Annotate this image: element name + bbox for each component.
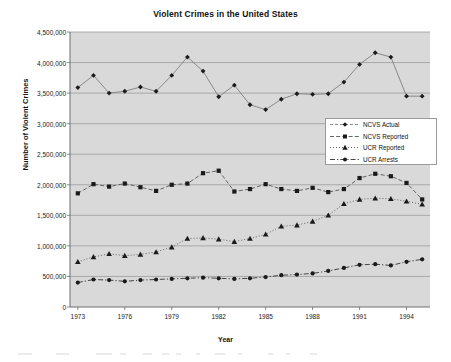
data-point-marker: [248, 187, 252, 191]
legend-item[interactable]: NCVS Reported: [326, 131, 436, 143]
data-point-marker: [279, 187, 283, 191]
data-point-marker: [185, 276, 189, 280]
data-point-marker: [311, 186, 315, 190]
legend-item[interactable]: NCVS Actual: [326, 119, 436, 131]
data-point-marker: [404, 260, 408, 264]
data-point-marker: [264, 275, 268, 279]
data-point-marker: [170, 277, 174, 281]
legend-marker-triangle-icon: [328, 142, 362, 153]
legend-label: UCR Reported: [363, 144, 404, 151]
data-point-marker: [420, 197, 424, 201]
data-point-marker: [107, 278, 111, 282]
data-point-marker: [311, 271, 315, 275]
data-point-marker: [232, 189, 236, 193]
data-point-marker: [76, 191, 80, 195]
legend-marker-diamond-icon: [328, 119, 362, 130]
data-point-marker: [389, 174, 393, 178]
data-point-marker: [279, 273, 283, 277]
data-point-marker: [342, 145, 347, 150]
data-point-marker: [170, 183, 174, 187]
data-point-marker: [342, 187, 346, 191]
chart-figure: Violent Crimes in the United States Numb…: [0, 0, 451, 362]
data-point-marker: [295, 273, 299, 277]
data-point-marker: [248, 276, 252, 280]
data-point-marker: [343, 157, 347, 161]
data-point-marker: [138, 278, 142, 282]
data-point-marker: [154, 277, 158, 281]
data-point-marker: [343, 122, 348, 127]
plot-area: [0, 0, 451, 362]
data-point-marker: [264, 182, 268, 186]
data-point-marker: [185, 181, 189, 185]
data-point-marker: [343, 134, 347, 138]
data-point-marker: [201, 171, 205, 175]
data-point-marker: [404, 181, 408, 185]
data-point-marker: [76, 280, 80, 284]
data-point-marker: [91, 182, 95, 186]
data-point-marker: [357, 176, 361, 180]
legend-item[interactable]: UCR Reported: [326, 142, 436, 154]
data-point-marker: [107, 185, 111, 189]
chart-legend: NCVS ActualNCVS ReportedUCR ReportedUCR …: [325, 118, 437, 165]
data-point-marker: [357, 263, 361, 267]
legend-marker-square-icon: [328, 131, 362, 142]
legend-label: NCVS Actual: [363, 121, 399, 128]
data-point-marker: [232, 277, 236, 281]
data-point-marker: [217, 276, 221, 280]
data-point-marker: [123, 181, 127, 185]
legend-marker-circle-icon: [328, 154, 362, 165]
data-point-marker: [217, 169, 221, 173]
data-point-marker: [295, 189, 299, 193]
data-point-marker: [138, 185, 142, 189]
data-point-marker: [420, 257, 424, 261]
data-point-marker: [373, 172, 377, 176]
legend-item[interactable]: UCR Arrests: [326, 154, 436, 166]
data-point-marker: [342, 266, 346, 270]
data-point-marker: [154, 189, 158, 193]
data-point-marker: [326, 269, 330, 273]
data-point-marker: [123, 279, 127, 283]
data-point-marker: [389, 263, 393, 267]
data-point-marker: [326, 190, 330, 194]
legend-label: NCVS Reported: [363, 133, 408, 140]
data-point-marker: [91, 277, 95, 281]
data-point-marker: [201, 276, 205, 280]
legend-label: UCR Arrests: [363, 156, 398, 163]
data-point-marker: [373, 262, 377, 266]
page-footer-smudge: [10, 352, 340, 357]
